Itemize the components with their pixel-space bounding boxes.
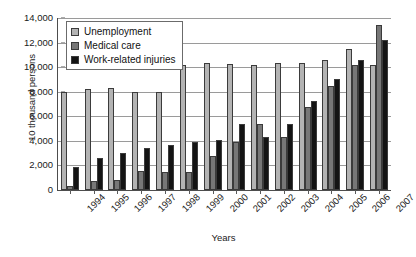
bar-unemployment-1995 xyxy=(85,89,91,190)
bar-work-related-injuries-1998 xyxy=(168,145,174,190)
y-axis-tick-label: 0 xyxy=(8,185,53,195)
legend-item: Medical care xyxy=(71,39,176,52)
bar-work-related-injuries-1996 xyxy=(120,153,126,190)
x-axis-tick-label: 1995 xyxy=(109,192,131,214)
y-axis-tick-labels: 02,0004,0006,0008,00010,00012,00014,000 xyxy=(8,18,53,190)
bar-group xyxy=(272,18,296,190)
bar-work-related-injuries-2007 xyxy=(382,40,388,190)
y-axis-tick-label: 2,000 xyxy=(8,161,53,171)
bar-work-related-injuries-1997 xyxy=(144,148,150,190)
bar-group xyxy=(224,18,248,190)
legend-swatch-icon xyxy=(71,42,79,50)
legend-item: Unemployment xyxy=(71,25,176,38)
bar-group xyxy=(248,18,272,190)
legend-swatch-icon xyxy=(71,56,79,64)
bar-group xyxy=(320,18,344,190)
bar-group xyxy=(367,18,391,190)
x-axis-tick-label: 1996 xyxy=(133,192,155,214)
legend-label: Medical care xyxy=(84,41,141,51)
bar-work-related-injuries-2001 xyxy=(239,124,245,190)
bar-work-related-injuries-2004 xyxy=(311,101,317,190)
bar-group xyxy=(343,18,367,190)
bar-work-related-injuries-1999 xyxy=(192,142,198,190)
x-axis-tick-label: 2005 xyxy=(347,192,369,214)
y-axis-tick-label: 4,000 xyxy=(8,136,53,146)
bar-work-related-injuries-2005 xyxy=(334,79,340,190)
y-axis-tick-label: 14,000 xyxy=(8,13,53,23)
bar-work-related-injuries-2003 xyxy=(287,124,293,190)
legend-label: Unemployment xyxy=(84,27,151,37)
x-axis-tick-label: 2007 xyxy=(394,192,416,214)
bar-unemployment-1994 xyxy=(61,92,67,190)
x-axis-tick-label: 2004 xyxy=(323,192,345,214)
chart-legend: UnemploymentMedical careWork-related inj… xyxy=(66,21,183,70)
x-axis-tick-label: 2002 xyxy=(275,192,297,214)
x-axis-tick-label: 2003 xyxy=(299,192,321,214)
x-axis-tick-label: 1994 xyxy=(85,192,107,214)
y-axis-tick-label: 8,000 xyxy=(8,87,53,97)
y-axis-tick-label: 6,000 xyxy=(8,112,53,122)
bar-group xyxy=(296,18,320,190)
x-axis-tick-label: 1998 xyxy=(180,192,202,214)
bar-unemployment-1996 xyxy=(108,88,114,190)
x-axis-tick-labels: 1994199519961997199819992000200120022003… xyxy=(57,192,390,226)
legend-item: Work-related injuries xyxy=(71,53,176,66)
bar-group xyxy=(201,18,225,190)
legend-swatch-icon xyxy=(71,28,79,36)
x-axis-tick-label: 2001 xyxy=(252,192,274,214)
x-axis-title: Years xyxy=(57,232,390,243)
bar-work-related-injuries-2002 xyxy=(263,137,269,190)
bar-work-related-injuries-2006 xyxy=(358,60,364,190)
x-axis-tick-label: 1999 xyxy=(204,192,226,214)
y-axis-tick-label: 10,000 xyxy=(8,62,53,72)
x-axis-tick-label: 2000 xyxy=(228,192,250,214)
x-axis-tick-label: 1997 xyxy=(156,192,178,214)
bar-work-related-injuries-1994 xyxy=(73,167,79,190)
bar-work-related-injuries-2000 xyxy=(216,140,222,190)
y-axis-tick-label: 12,000 xyxy=(8,38,53,48)
bar-work-related-injuries-1995 xyxy=(97,158,103,190)
legend-label: Work-related injuries xyxy=(84,55,176,65)
x-axis-tick-label: 2006 xyxy=(371,192,393,214)
